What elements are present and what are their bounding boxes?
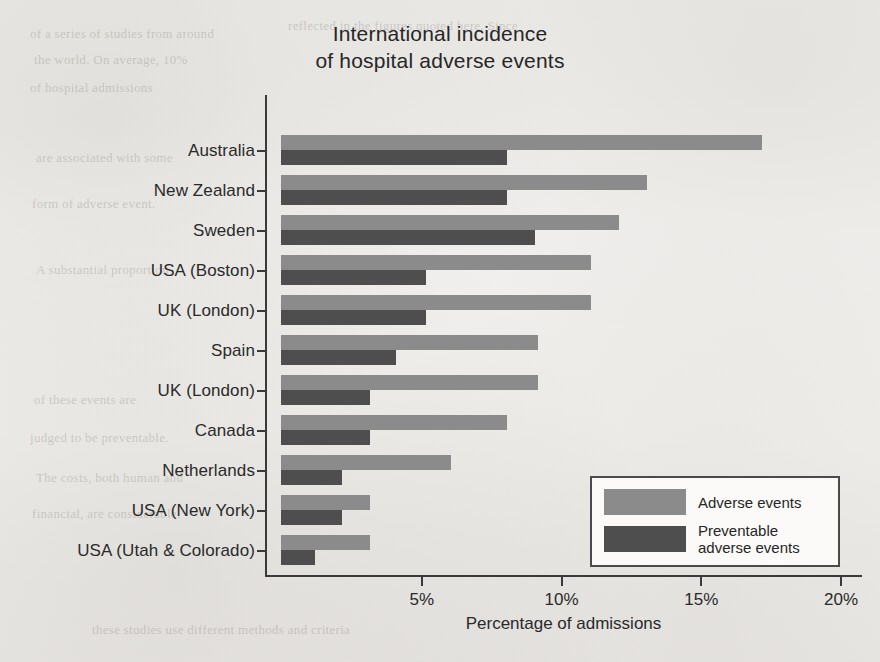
y-axis-tick-label: UK (London): [158, 301, 256, 321]
legend-swatch-preventable-adverse-events: [604, 526, 686, 552]
y-axis-tick: [257, 230, 265, 232]
x-axis-tick-label: 15%: [684, 590, 718, 610]
y-axis-tick: [257, 310, 265, 312]
x-axis-tick: [840, 577, 842, 586]
y-axis-tick: [257, 430, 265, 432]
bar-group: Spain: [265, 331, 862, 371]
y-axis-tick-label: UK (London): [158, 381, 256, 401]
bar-adverse-events: [281, 375, 538, 390]
x-axis-tick-label: 5%: [409, 590, 434, 610]
legend-swatch-adverse-events: [604, 489, 686, 515]
bar-group: UK (London): [265, 291, 862, 331]
y-axis-tick-label: New Zealand: [154, 181, 255, 201]
bar-adverse-events: [281, 175, 647, 190]
bar-preventable-adverse-events: [281, 430, 370, 445]
y-axis-tick: [257, 270, 265, 272]
bar-preventable-adverse-events: [281, 550, 315, 565]
bar-adverse-events: [281, 455, 451, 470]
bar-group: Australia: [265, 131, 862, 171]
x-axis-line: [265, 575, 862, 577]
x-axis-title: Percentage of admissions: [265, 614, 862, 634]
y-axis-tick-label: Australia: [188, 141, 255, 161]
legend-label-line: Preventable: [698, 522, 800, 539]
bar-preventable-adverse-events: [281, 470, 342, 485]
y-axis-tick-label: Sweden: [193, 221, 255, 241]
bar-adverse-events: [281, 495, 370, 510]
bar-adverse-events: [281, 415, 507, 430]
y-axis-tick: [257, 510, 265, 512]
bar-adverse-events: [281, 295, 591, 310]
y-axis-tick-label: USA (Utah & Colorado): [77, 541, 255, 561]
plot-area: AustraliaNew ZealandSwedenUSA (Boston)UK…: [265, 95, 862, 577]
legend-label-adverse-events: Adverse events: [698, 494, 801, 511]
y-axis-tick: [257, 470, 265, 472]
y-axis-tick: [257, 390, 265, 392]
chart-title-line-1: International incidence: [0, 20, 880, 47]
y-axis-tick-label: USA (Boston): [151, 261, 255, 281]
y-axis-tick: [257, 190, 265, 192]
y-axis-tick-label: USA (New York): [132, 501, 255, 521]
legend-label-line: Adverse events: [698, 494, 801, 511]
x-axis-tick: [421, 577, 423, 586]
bar-preventable-adverse-events: [281, 190, 507, 205]
bar-adverse-events: [281, 255, 591, 270]
chart-title-line-2: of hospital adverse events: [0, 47, 880, 74]
x-axis-tick-label: 20%: [824, 590, 858, 610]
bar-group: UK (London): [265, 371, 862, 411]
y-axis-tick: [257, 350, 265, 352]
bar-group: USA (Boston): [265, 251, 862, 291]
bar-preventable-adverse-events: [281, 390, 370, 405]
chart-title: International incidence of hospital adve…: [0, 20, 880, 74]
legend-item-preventable-adverse-events: Preventable adverse events: [604, 522, 800, 556]
bar-adverse-events: [281, 215, 619, 230]
bar-preventable-adverse-events: [281, 230, 535, 245]
bar-preventable-adverse-events: [281, 270, 426, 285]
x-axis-tick: [700, 577, 702, 586]
bar-adverse-events: [281, 335, 538, 350]
bar-group: New Zealand: [265, 171, 862, 211]
y-axis-tick-label: Spain: [211, 341, 255, 361]
bar-preventable-adverse-events: [281, 310, 426, 325]
chart-legend: Adverse events Preventable adverse event…: [590, 476, 840, 567]
bar-preventable-adverse-events: [281, 510, 342, 525]
x-axis-tick-label: 10%: [544, 590, 578, 610]
bar-adverse-events: [281, 135, 762, 150]
legend-label-preventable-adverse-events: Preventable adverse events: [698, 522, 800, 556]
y-axis-tick-label: Netherlands: [162, 461, 255, 481]
y-axis-tick: [257, 550, 265, 552]
chart-figure: International incidence of hospital adve…: [0, 0, 880, 662]
y-axis-tick: [257, 150, 265, 152]
bar-group: Canada: [265, 411, 862, 451]
bar-adverse-events: [281, 535, 370, 550]
legend-item-adverse-events: Adverse events: [604, 489, 801, 515]
y-axis-tick-label: Canada: [195, 421, 255, 441]
bar-preventable-adverse-events: [281, 350, 396, 365]
bar-group: Sweden: [265, 211, 862, 251]
legend-label-line: adverse events: [698, 539, 800, 556]
x-axis-tick: [561, 577, 563, 586]
bar-preventable-adverse-events: [281, 150, 507, 165]
